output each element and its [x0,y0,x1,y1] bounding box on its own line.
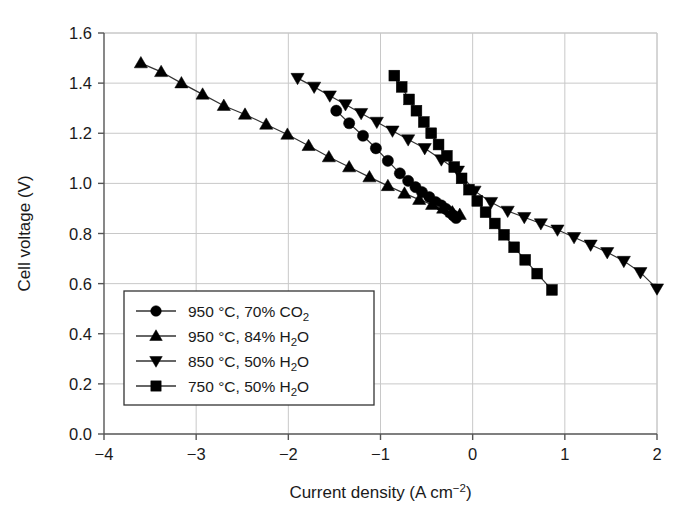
data-point-square [509,242,520,253]
data-point-triangle-up [302,139,315,150]
y-axis-title: Cell voltage (V) [15,175,34,291]
data-point-triangle-down [650,284,663,295]
data-point-square [389,70,400,81]
data-point-square [404,94,415,105]
data-point-triangle-up [398,187,411,198]
xtick-label: −4 [95,445,114,463]
data-point-triangle-up [196,88,209,99]
data-point-square [547,284,558,295]
data-point-triangle-up [381,179,394,190]
data-point-square [418,117,429,128]
data-point-triangle-down [418,144,431,155]
ytick-label: 1.4 [69,74,92,92]
data-point-square [456,173,467,184]
legend-label-subscript: 2 [303,311,309,323]
data-point-circle [331,105,342,116]
xtick-label: 2 [652,445,661,463]
x-axis-title-exponent: −2 [453,482,466,494]
data-point-square [449,162,460,173]
xtick-label: −3 [187,445,206,463]
data-point-triangle-down [551,225,564,236]
data-point-square [520,254,531,265]
ytick-label: 0.4 [69,325,92,343]
data-point-triangle-down [323,91,336,102]
data-point-triangle-down [518,212,531,223]
data-point-triangle-down [308,82,321,93]
ytick-label: 1.2 [69,124,92,142]
data-point-square [151,381,161,391]
data-point-square [489,218,500,229]
legend-label-tail: O [297,328,309,345]
data-point-triangle-down [534,219,547,230]
data-point-square [499,229,510,240]
ytick-label: 0.0 [69,425,92,443]
ytick-label: 1.6 [69,24,92,42]
data-point-square [480,207,491,218]
data-point-triangle-up [134,56,147,67]
legend-label-tail: O [297,353,309,370]
series-2 [291,73,664,295]
data-point-triangle-down [601,248,614,259]
data-point-triangle-up [343,160,356,171]
data-point-triangle-down [501,206,514,217]
data-point-triangle-down [386,126,399,137]
data-point-circle [370,143,381,154]
xtick-label: 0 [468,445,477,463]
data-point-square [441,150,452,161]
data-point-circle [151,306,162,317]
legend-label-tail: O [297,378,309,395]
data-point-triangle-up [322,150,335,161]
ytick-label: 0.6 [69,275,92,293]
ytick-label: 0.8 [69,225,92,243]
data-point-square [532,268,543,279]
data-point-square [411,105,422,116]
data-point-circle [382,155,393,166]
data-point-triangle-down [402,135,415,146]
data-point-triangle-up [238,108,251,119]
data-point-circle [357,130,368,141]
data-point-triangle-down [567,233,580,244]
x-axis-title: Current density (A cm−2) [289,482,471,502]
series-1 [134,56,466,219]
xtick-label: −2 [279,445,298,463]
data-point-triangle-up [363,171,376,182]
data-point-triangle-down [584,240,597,251]
data-point-triangle-down [617,256,630,267]
chart-figure: 0.00.20.40.60.81.01.21.41.6−4−3−2−1012Cu… [0,0,693,532]
data-point-triangle-up [260,118,273,129]
legend: 950 °C, 70% CO2950 °C, 84% H2O850 °C, 50… [124,291,374,405]
data-point-triangle-up [155,65,168,76]
data-point-square [472,196,483,207]
data-point-triangle-down [355,108,368,119]
xtick-label: 1 [560,445,569,463]
data-point-triangle-up [217,99,230,110]
data-point-square [433,139,444,150]
data-point-triangle-down [370,117,383,128]
data-point-square [396,81,407,92]
ytick-label: 1.0 [69,174,92,192]
data-point-circle [344,118,355,129]
data-point-triangle-up [175,77,188,88]
ytick-label: 0.2 [69,375,92,393]
chart-canvas: 0.00.20.40.60.81.01.21.41.6−4−3−2−1012Cu… [0,0,693,532]
data-point-square [426,128,437,139]
data-point-square [464,184,475,195]
x-axis-title-tail: ) [466,483,472,502]
xtick-label: −1 [371,445,390,463]
